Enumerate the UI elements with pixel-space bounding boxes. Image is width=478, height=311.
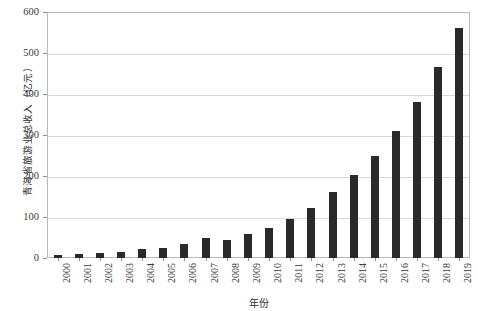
bar-slot xyxy=(216,12,237,258)
bar-slot xyxy=(301,12,322,258)
x-tick-label: 2013 xyxy=(337,263,347,283)
x-tick-label: 2006 xyxy=(188,263,198,283)
bar-slot xyxy=(343,12,364,258)
bar[interactable] xyxy=(307,208,315,258)
x-tick-mark xyxy=(248,258,249,261)
bar[interactable] xyxy=(138,249,146,258)
x-tick-mark xyxy=(79,258,80,261)
x-tick-label: 2011 xyxy=(294,263,304,283)
bar-slot xyxy=(449,12,470,258)
x-tick-mark xyxy=(184,258,185,261)
x-tick-mark xyxy=(142,258,143,261)
bar-slot xyxy=(110,12,131,258)
bar-slot xyxy=(407,12,428,258)
x-tick-label: 2007 xyxy=(210,263,220,283)
x-tick-label: 2009 xyxy=(252,263,262,283)
bar[interactable] xyxy=(180,244,188,258)
bar-slot xyxy=(132,12,153,258)
y-tick-label: 100 xyxy=(23,212,39,223)
x-tick-mark xyxy=(206,258,207,261)
bar-slot xyxy=(195,12,216,258)
x-tick-label: 2004 xyxy=(146,263,156,283)
x-tick-label: 2017 xyxy=(421,263,431,283)
x-axis: 年份 2000200120022003200420052006200720082… xyxy=(47,258,470,311)
y-axis: 青海省旅游业总收入（亿元） 0100200300400500600 xyxy=(0,0,47,258)
bar-slot xyxy=(237,12,258,258)
x-tick-mark xyxy=(459,258,460,261)
bar-slot xyxy=(153,12,174,258)
bar-slot xyxy=(385,12,406,258)
bar[interactable] xyxy=(202,238,210,258)
bars-layer xyxy=(47,12,470,258)
bar[interactable] xyxy=(244,234,252,258)
bar[interactable] xyxy=(434,67,442,258)
bar-slot xyxy=(89,12,110,258)
x-tick-mark xyxy=(417,258,418,261)
bar[interactable] xyxy=(223,240,231,258)
x-tick-label: 2016 xyxy=(400,263,410,283)
x-tick-mark xyxy=(354,258,355,261)
bar[interactable] xyxy=(455,28,463,258)
x-tick-label: 2019 xyxy=(463,263,473,283)
bar[interactable] xyxy=(371,156,379,258)
bar-slot xyxy=(428,12,449,258)
y-tick-label: 500 xyxy=(23,48,39,59)
bar[interactable] xyxy=(159,248,167,258)
x-tick-label: 2000 xyxy=(62,263,72,283)
y-tick-label: 200 xyxy=(23,171,39,182)
x-tick-mark xyxy=(311,258,312,261)
y-tick-label: 0 xyxy=(34,253,39,264)
x-tick-mark xyxy=(333,258,334,261)
bar[interactable] xyxy=(286,219,294,258)
x-tick-mark xyxy=(58,258,59,261)
bar-slot xyxy=(322,12,343,258)
y-tick-label: 300 xyxy=(23,130,39,141)
x-tick-mark xyxy=(290,258,291,261)
x-tick-label: 2005 xyxy=(167,263,177,283)
x-tick-mark xyxy=(227,258,228,261)
x-tick-mark xyxy=(269,258,270,261)
x-tick-label: 2010 xyxy=(273,263,283,283)
x-tick-mark xyxy=(396,258,397,261)
bar-slot xyxy=(47,12,68,258)
y-tick-label: 400 xyxy=(23,89,39,100)
x-tick-label: 2008 xyxy=(231,263,241,283)
x-tick-mark xyxy=(438,258,439,261)
bar[interactable] xyxy=(265,228,273,258)
bar-slot xyxy=(174,12,195,258)
x-tick-label: 2012 xyxy=(315,263,325,283)
bar[interactable] xyxy=(329,192,337,258)
bar[interactable] xyxy=(350,175,358,258)
bar-slot xyxy=(68,12,89,258)
y-tick-label: 600 xyxy=(23,7,39,18)
x-tick-label: 2002 xyxy=(104,263,114,283)
x-tick-label: 2015 xyxy=(379,263,389,283)
bar-slot xyxy=(364,12,385,258)
bar[interactable] xyxy=(413,102,421,258)
bar[interactable] xyxy=(392,131,400,258)
bar-chart: 青海省旅游业总收入（亿元） 0100200300400500600 年份 200… xyxy=(0,0,478,311)
x-tick-label: 2003 xyxy=(125,263,135,283)
x-tick-label: 2018 xyxy=(442,263,452,283)
x-tick-mark xyxy=(163,258,164,261)
x-axis-title: 年份 xyxy=(47,298,470,309)
x-tick-mark xyxy=(100,258,101,261)
x-tick-label: 2001 xyxy=(83,263,93,283)
bar-slot xyxy=(280,12,301,258)
x-tick-label: 2014 xyxy=(358,263,368,283)
x-tick-mark xyxy=(375,258,376,261)
x-tick-mark xyxy=(121,258,122,261)
bar-slot xyxy=(259,12,280,258)
